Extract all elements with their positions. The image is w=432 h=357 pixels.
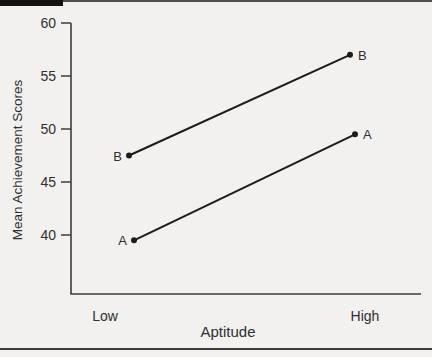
x-tick-label-low: Low bbox=[92, 308, 119, 324]
data-point-A bbox=[131, 237, 137, 243]
series-label-B: B bbox=[113, 149, 122, 164]
axis-lines bbox=[71, 23, 421, 294]
data-series: AABB bbox=[113, 48, 372, 249]
data-point-B bbox=[126, 153, 132, 159]
series-label-A: A bbox=[363, 127, 372, 142]
y-axis-title: Mean Achievement Scores bbox=[10, 79, 25, 240]
series-label-A: A bbox=[118, 233, 127, 248]
x-axis-title: Aptitude bbox=[200, 323, 255, 340]
data-point-B bbox=[347, 52, 353, 58]
series-line-A bbox=[134, 134, 355, 240]
y-tick-label: 45 bbox=[40, 174, 56, 190]
x-tick-label-high: High bbox=[351, 308, 380, 324]
series-line-B bbox=[129, 55, 350, 156]
y-tick-label: 60 bbox=[40, 15, 56, 31]
bottom-rule bbox=[0, 348, 432, 350]
y-tick-label: 50 bbox=[40, 121, 56, 137]
series-label-B: B bbox=[358, 48, 367, 63]
y-tick-label: 55 bbox=[40, 68, 56, 84]
y-tick-label: 40 bbox=[40, 227, 56, 243]
line-chart: Mean Achievement Scores Aptitude Low Hig… bbox=[0, 0, 432, 357]
data-point-A bbox=[352, 131, 358, 137]
figure-page: Mean Achievement Scores Aptitude Low Hig… bbox=[0, 0, 432, 357]
